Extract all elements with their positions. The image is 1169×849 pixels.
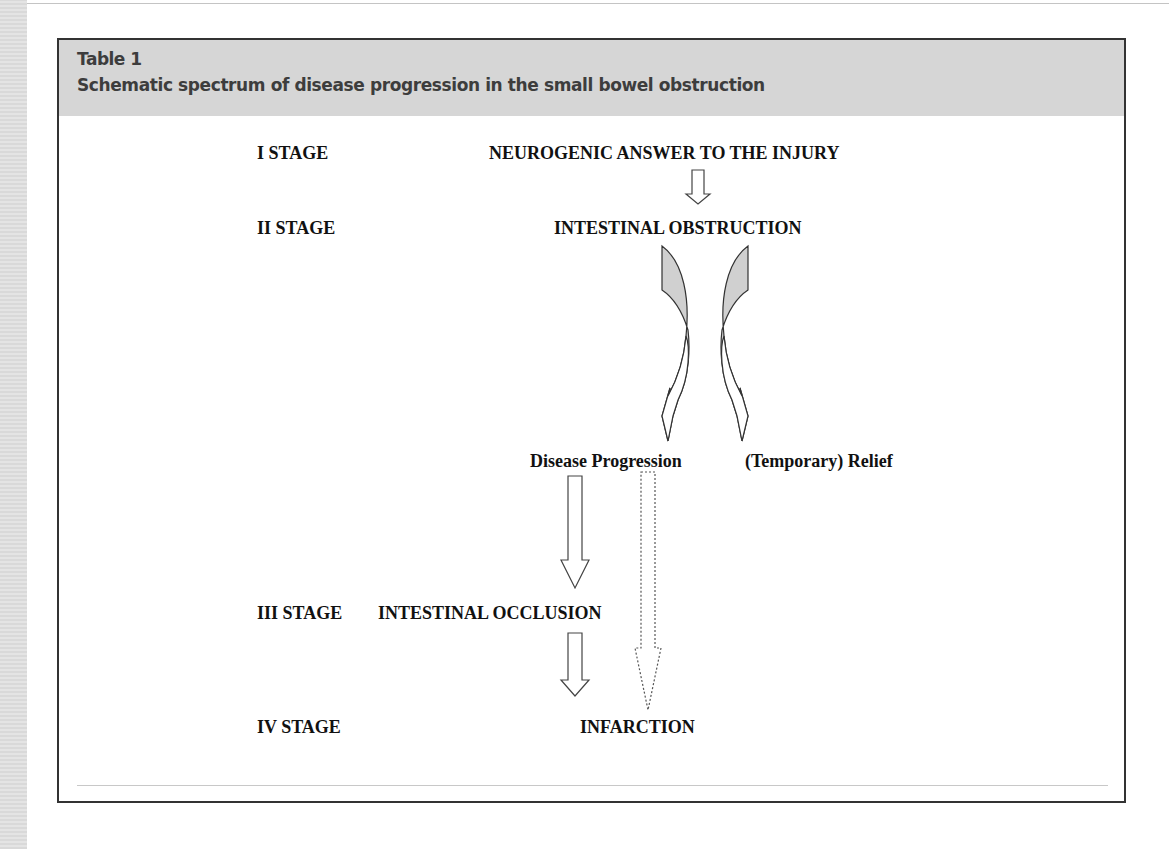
curved-arrow-left-icon — [662, 246, 689, 441]
dotted-arrow-down-icon — [635, 472, 661, 710]
stage-event-4: INFARCTION — [580, 718, 695, 736]
arrow-down-icon — [561, 476, 589, 588]
stage-label-1: I STAGE — [257, 144, 328, 162]
stage-event-3: INTESTINAL OCCLUSION — [378, 604, 602, 622]
stage-label-3: III STAGE — [257, 604, 342, 622]
branch-disease-progression: Disease Progression — [530, 452, 682, 470]
curved-arrow-right-icon — [721, 246, 748, 441]
branch-temporary-relief: (Temporary) Relief — [745, 452, 893, 470]
stage-event-2: INTESTINAL OBSTRUCTION — [554, 219, 802, 237]
stage-event-1: NEUROGENIC ANSWER TO THE INJURY — [489, 144, 839, 162]
stage-label-4: IV STAGE — [257, 718, 341, 736]
arrow-down-icon — [686, 170, 710, 204]
stage-label-2: II STAGE — [257, 219, 335, 237]
arrow-down-icon — [561, 633, 589, 696]
